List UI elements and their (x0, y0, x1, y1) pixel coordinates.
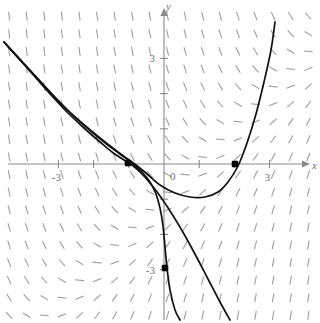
slope-field-dash (148, 311, 151, 320)
slope-field-dash (23, 313, 31, 318)
slope-field-figure: -333-30xy (0, 0, 320, 323)
slope-field-dash (200, 118, 206, 125)
slope-field-dash (145, 209, 154, 210)
slope-field-dash (252, 66, 258, 73)
slope-field-dash (43, 170, 45, 179)
slope-field-dash (43, 188, 45, 197)
slope-field-dash (111, 225, 119, 230)
slope-field-dash (114, 117, 116, 126)
x-tick-label: -3 (52, 171, 62, 183)
slope-field-dash (112, 188, 117, 196)
slope-field-dash (307, 188, 309, 197)
slope-field-dash (288, 30, 294, 37)
slope-field-dash (96, 29, 97, 38)
slope-field-dash (304, 31, 312, 36)
slope-field-dash (44, 12, 45, 21)
slope-field-dash (94, 224, 100, 231)
slope-field-dash (76, 260, 84, 265)
slope-field-dash (167, 12, 169, 21)
slope-field-dash (26, 205, 28, 214)
slope-field-dash (25, 241, 28, 249)
slope-field-dash (60, 206, 63, 214)
slope-field-dash (184, 47, 186, 56)
slope-field-dash (59, 259, 65, 266)
slope-field-dash (96, 153, 99, 162)
slope-field-dash (61, 65, 62, 74)
slope-field-dash (237, 293, 239, 302)
slope-field-dash (40, 295, 48, 300)
slope-field-dash (130, 153, 134, 161)
slope-field-dash (9, 29, 10, 38)
slope-field-dash (304, 67, 312, 70)
slope-field-dash (9, 12, 10, 21)
slope-field-dash (202, 12, 204, 21)
slope-field-dash (110, 245, 119, 246)
slope-field-dash (255, 258, 257, 267)
slope-field-dash (272, 205, 275, 214)
slope-field-dash (201, 223, 205, 231)
slope-field-dash (61, 82, 62, 91)
slope-field-dash (113, 135, 116, 144)
slope-field-dash (79, 65, 80, 74)
slope-field-dash (149, 82, 151, 91)
slope-field-dash (42, 259, 47, 267)
slope-field-dash (271, 153, 275, 161)
slope-field-dash (132, 12, 133, 21)
origin-label: 0 (170, 170, 176, 182)
slope-field-dash (183, 258, 186, 266)
slope-field-dash (61, 153, 63, 162)
slope-field-dash (58, 314, 66, 317)
slope-field-dash (114, 82, 116, 91)
slope-field-dash (184, 12, 186, 21)
slope-field-dash (41, 277, 47, 284)
slope-field-dash (166, 118, 170, 126)
slope-field-dash (26, 117, 27, 126)
slope-field-dash (219, 29, 222, 38)
slope-field-dash (199, 173, 207, 176)
slope-field-dash (75, 296, 83, 299)
slope-field-dash (26, 100, 27, 109)
slope-field-dash (252, 84, 260, 89)
slope-field-dash (272, 258, 274, 267)
slope-field-dash (130, 294, 134, 302)
slope-field-dash (131, 82, 133, 91)
slope-field-dash (128, 227, 137, 228)
slope-field-dash (235, 83, 241, 90)
slope-field-dash (233, 121, 242, 122)
slope-field-dash (234, 102, 242, 107)
slope-field-dash (308, 258, 310, 267)
slope-field-dash (217, 172, 224, 178)
slope-field-dash (40, 315, 49, 316)
slope-field-dash (290, 311, 291, 320)
slope-field-dash (202, 29, 204, 38)
slope-field-dash (96, 117, 98, 126)
slope-field-dash (131, 65, 133, 74)
slope-field-dash (8, 135, 9, 144)
slope-field-dash (287, 49, 295, 54)
slope-field-dash (57, 297, 66, 298)
slope-field-dash (254, 223, 257, 232)
slope-field-dash (8, 223, 10, 232)
slope-field-dash (305, 13, 311, 20)
slope-field-dash (149, 29, 151, 38)
slope-field-dash (254, 241, 256, 250)
slope-field-dash (254, 188, 257, 196)
slope-field-dash (252, 136, 259, 142)
slope-field-dash (114, 100, 116, 109)
slope-field-dash (25, 223, 28, 232)
slope-field-dash (26, 47, 27, 56)
slope-field-dash (8, 205, 10, 214)
slope-field-dash (254, 206, 257, 215)
slope-field-dash (272, 241, 274, 250)
slope-field-dash (112, 294, 117, 301)
slope-field-dash (269, 67, 277, 72)
slope-field-dash (218, 83, 223, 91)
slope-field-dash (8, 188, 10, 197)
slope-field-dash (288, 118, 293, 125)
slope-field-dash (308, 293, 309, 302)
slope-field-dash (271, 136, 276, 143)
slope-field-dash (290, 276, 292, 285)
slope-field-dash (58, 278, 66, 283)
slope-field-dash (253, 48, 258, 56)
slope-field-dash (129, 260, 136, 266)
